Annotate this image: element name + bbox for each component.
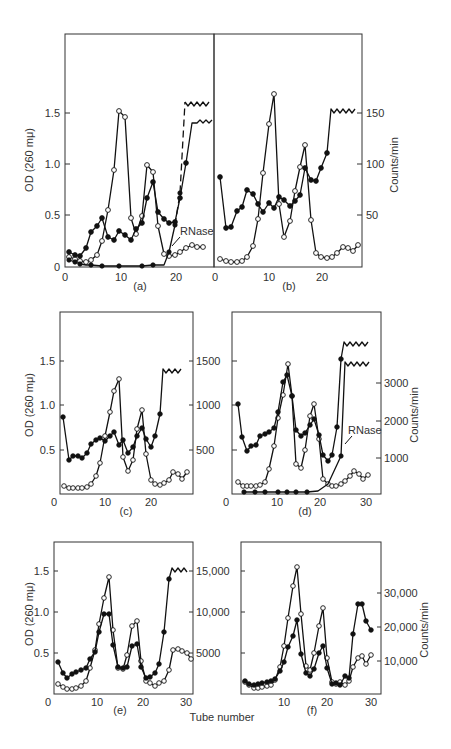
right-ylabel-d: Counts/min	[408, 387, 420, 443]
f-counts-markers	[243, 602, 374, 688]
e-xtick-0: 0	[45, 696, 51, 708]
e-ytick-15: 1.5	[34, 565, 49, 577]
b-xtick-20: 20	[316, 271, 328, 283]
e-xtick-10: 10	[91, 696, 103, 708]
panel-b-frame	[214, 34, 362, 267]
panel-label-f: (f)	[307, 704, 317, 716]
right-ylabel-f: Counts/min	[418, 602, 430, 658]
e-ytick-5000: 5000	[196, 647, 220, 659]
d-ytick-3000: 3000	[384, 377, 408, 389]
chart-figure: 0 0.5 1.0 1.5 0 10 20 (a) OD (260 mμ) RN…	[0, 0, 451, 749]
c-ytick-1000: 1000	[196, 399, 220, 411]
rnase-annotation-a: RNase	[180, 225, 214, 237]
d-xtick-10: 10	[271, 496, 283, 508]
e-xtick-20: 20	[137, 696, 149, 708]
d-xtick-20: 20	[314, 496, 326, 508]
a-counts-markers	[67, 161, 189, 259]
left-ylabel-c: OD (260 mμ)	[23, 373, 35, 437]
rnase-arrow-a	[172, 237, 180, 246]
f-xtick-30: 30	[365, 696, 377, 708]
panel-d: 1000 2000 3000 0 10 20 30 (d) Counts/min…	[223, 312, 420, 517]
b-xtick-10: 10	[263, 271, 275, 283]
d-xtick-0: 0	[223, 496, 229, 508]
e-ytick-10: 1.0	[34, 606, 49, 618]
b-od-markers	[218, 92, 361, 265]
a-ytick-0: 0	[54, 261, 60, 273]
c-xtick-20: 20	[145, 496, 157, 508]
e-ytick-05: 0.5	[34, 647, 49, 659]
d-xtick-30: 30	[360, 496, 372, 508]
c-xtick-0: 0	[51, 496, 57, 508]
c-ytick-15: 1.5	[40, 355, 55, 367]
a-ytick-10: 1.0	[45, 158, 60, 170]
left-ylabel-a: OD (260 mμ)	[23, 128, 35, 192]
panel-c: 0.5 1.0 1.5 500 1000 1500 0 10 20 (c) OD…	[23, 312, 220, 517]
panel-b: 50 100 150 0 10 20 (b) Counts/min	[212, 34, 400, 292]
f-ytick-10000: 10,000	[384, 655, 418, 667]
b-ytick-100: 100	[366, 158, 384, 170]
b-xtick-0: 0	[212, 271, 218, 283]
f-ytick-30000: 30,000	[384, 587, 418, 599]
panel-label-b: (b)	[282, 280, 295, 292]
c-ytick-1500: 1500	[196, 355, 220, 367]
left-ylabel-e: OD (260 mμ)	[23, 582, 35, 646]
a-xtick-0: 0	[62, 271, 68, 283]
panel-label-a: (a)	[133, 280, 146, 292]
right-ylabel-b: Counts/min	[388, 137, 400, 193]
a-xtick-10: 10	[115, 271, 127, 283]
d-ytick-2000: 2000	[384, 415, 408, 427]
c-ytick-10: 1.0	[40, 399, 55, 411]
c-ytick-500: 500	[196, 444, 214, 456]
a-ytick-15: 1.5	[45, 107, 60, 119]
panel-label-e: (e)	[113, 704, 126, 716]
x-axis-label: Tube number	[189, 711, 254, 723]
f-xtick-20: 20	[321, 696, 333, 708]
panel-e: 0.5 1.0 1.5 5000 10,000 15,000 0 10 20 3…	[23, 542, 230, 716]
f-ytick-20000: 20,000	[384, 621, 418, 633]
rnase-arrow-d	[345, 436, 352, 444]
e-ytick-10000: 10,000	[196, 606, 230, 618]
panel-label-d: (d)	[298, 505, 311, 517]
a-xtick-20: 20	[170, 271, 182, 283]
rnase-annotation-d: RNase	[348, 424, 382, 436]
a-od-markers	[67, 109, 206, 265]
f-xtick-10: 10	[278, 696, 290, 708]
d-ytick-1000: 1000	[384, 452, 408, 464]
a-ytick-05: 0.5	[45, 209, 60, 221]
b-ytick-50: 50	[366, 209, 378, 221]
panel-d-frame	[232, 312, 381, 494]
c-xtick-10: 10	[99, 496, 111, 508]
panel-label-c: (c)	[120, 505, 133, 517]
e-xtick-30: 30	[180, 696, 192, 708]
c-od-markers	[62, 377, 190, 491]
e-ytick-15000: 15,000	[196, 565, 230, 577]
panel-f: 10,000 20,000 30,000 10 20 30 (f) Counts…	[241, 542, 430, 716]
c-ytick-05: 0.5	[40, 444, 55, 456]
b-ytick-150: 150	[366, 107, 384, 119]
panel-a: 0 0.5 1.0 1.5 0 10 20 (a) OD (260 mμ) RN…	[23, 34, 214, 292]
